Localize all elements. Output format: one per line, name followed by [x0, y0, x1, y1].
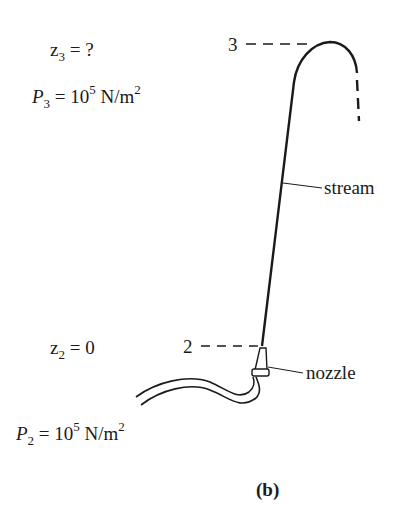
figure-caption: (b): [256, 480, 279, 499]
nozzle-body: [255, 348, 267, 370]
p3-unit-exponent: 2: [134, 82, 141, 97]
nozzle-label: nozzle: [306, 363, 356, 382]
z3-label: z3 = ?: [50, 40, 94, 59]
p3-unit: N/m: [96, 86, 135, 107]
p3-label: P3 = 105 N/m2: [32, 87, 141, 106]
nozzle-leader-line: [268, 367, 303, 373]
z2-value: = 0: [65, 337, 95, 358]
p2-unit-exponent: 2: [118, 419, 125, 434]
point-2-marker: 2: [183, 337, 193, 356]
stream-label: stream: [324, 178, 375, 197]
p2-label: P2 = 105 N/m2: [16, 424, 125, 443]
z2-label: z2 = 0: [50, 338, 95, 357]
p3-symbol: P: [32, 86, 44, 107]
hose-outer: [141, 377, 259, 405]
diagram-drawing: [0, 0, 409, 524]
falling-stream-dashed: [357, 80, 359, 121]
p2-symbol: P: [16, 423, 28, 444]
point-3-marker: 3: [228, 35, 238, 54]
p2-value: = 10: [34, 423, 73, 444]
stream-leader-line: [283, 183, 322, 188]
nozzle-collar: [252, 369, 269, 376]
p3-value: = 10: [50, 86, 89, 107]
p2-unit: N/m: [80, 423, 119, 444]
z3-value: = ?: [65, 39, 94, 60]
